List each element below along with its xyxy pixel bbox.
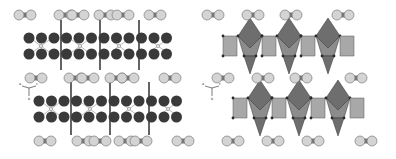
light-atom bbox=[314, 136, 324, 146]
vertex-atom bbox=[265, 117, 268, 120]
vertex-atom bbox=[261, 55, 264, 58]
octahedron-face bbox=[283, 56, 295, 74]
dark-atom bbox=[161, 33, 172, 44]
dark-atom bbox=[111, 33, 122, 44]
dark-atom bbox=[71, 112, 82, 123]
dark-atom bbox=[161, 49, 172, 60]
tile bbox=[223, 36, 237, 56]
center-atom bbox=[128, 108, 131, 111]
dark-atom bbox=[59, 112, 70, 123]
dark-atom bbox=[136, 49, 147, 60]
dark-atom bbox=[124, 33, 135, 44]
tile bbox=[262, 36, 276, 56]
dark-atom bbox=[124, 49, 135, 60]
dark-atom bbox=[146, 112, 157, 123]
vertex-atom bbox=[282, 55, 285, 58]
light-atom bbox=[144, 10, 154, 20]
center-atom bbox=[50, 108, 53, 111]
svg-text:c: c bbox=[36, 82, 38, 86]
vertex-atom bbox=[232, 97, 235, 100]
center-atom bbox=[118, 45, 121, 48]
vertex-atom bbox=[292, 117, 295, 120]
dark-atom bbox=[171, 112, 182, 123]
tile bbox=[340, 36, 354, 56]
dark-atom bbox=[46, 96, 57, 107]
dark-atom bbox=[49, 49, 60, 60]
dark-atom bbox=[34, 96, 45, 107]
svg-text:b: b bbox=[28, 97, 31, 101]
dark-atom bbox=[71, 96, 82, 107]
dark-atom bbox=[84, 96, 95, 107]
light-atom bbox=[79, 10, 89, 20]
crystal-structure-figure: acb acb bbox=[0, 0, 396, 159]
vertex-atom bbox=[310, 97, 313, 100]
polyhedral-structure: acb bbox=[198, 0, 396, 159]
tile bbox=[350, 98, 364, 118]
light-atom bbox=[171, 73, 181, 83]
dark-atom bbox=[24, 49, 35, 60]
vertex-atom bbox=[222, 55, 225, 58]
vertex-atom bbox=[237, 35, 240, 38]
light-atom bbox=[262, 136, 272, 146]
vertex-atom bbox=[315, 35, 318, 38]
ball-stick-structure: acb bbox=[0, 0, 198, 159]
light-atom bbox=[129, 73, 139, 83]
light-atom bbox=[355, 136, 365, 146]
center-atom bbox=[79, 45, 82, 48]
axis-indicator: acb bbox=[202, 82, 221, 101]
light-atom bbox=[367, 136, 377, 146]
vertex-atom bbox=[261, 35, 264, 38]
vertex-atom bbox=[255, 55, 258, 58]
dark-atom bbox=[146, 96, 157, 107]
vertex-atom bbox=[247, 97, 250, 100]
light-atom bbox=[114, 136, 124, 146]
dark-atom bbox=[61, 49, 72, 60]
vertex-atom bbox=[343, 117, 346, 120]
vertex-atom bbox=[294, 55, 297, 58]
light-atom bbox=[357, 73, 367, 83]
light-atom bbox=[130, 136, 140, 146]
dark-atom bbox=[74, 49, 85, 60]
dark-atom bbox=[96, 96, 107, 107]
light-atom bbox=[26, 10, 36, 20]
light-atom bbox=[202, 10, 212, 20]
light-atom bbox=[252, 73, 262, 83]
light-atom bbox=[94, 10, 104, 20]
dark-atom bbox=[61, 33, 72, 44]
light-atom bbox=[46, 136, 56, 146]
dark-atom bbox=[99, 49, 110, 60]
vertex-atom bbox=[232, 117, 235, 120]
light-atom bbox=[54, 10, 64, 20]
light-atom bbox=[67, 10, 77, 20]
dark-atom bbox=[46, 112, 57, 123]
light-atom bbox=[14, 10, 24, 20]
vertex-atom bbox=[325, 97, 328, 100]
dark-atom bbox=[159, 112, 170, 123]
tile bbox=[311, 98, 325, 118]
dark-atom bbox=[134, 112, 145, 123]
vertex-atom bbox=[310, 117, 313, 120]
dark-atom bbox=[86, 33, 97, 44]
light-atom bbox=[34, 136, 44, 146]
light-atom bbox=[292, 10, 302, 20]
dark-atom bbox=[111, 49, 122, 60]
light-atom bbox=[302, 73, 312, 83]
vertex-atom bbox=[300, 55, 303, 58]
light-atom bbox=[124, 10, 134, 20]
dark-atom bbox=[86, 49, 97, 60]
light-atom bbox=[280, 10, 290, 20]
light-atom bbox=[274, 136, 284, 146]
tile bbox=[301, 36, 315, 56]
dark-atom bbox=[84, 112, 95, 123]
light-atom bbox=[222, 136, 232, 146]
vertex-atom bbox=[304, 117, 307, 120]
dark-atom bbox=[109, 96, 120, 107]
dark-atom bbox=[149, 49, 160, 60]
tile bbox=[272, 98, 286, 118]
dark-atom bbox=[74, 33, 85, 44]
light-atom bbox=[184, 136, 194, 146]
svg-text:a: a bbox=[202, 82, 204, 86]
octahedron-face bbox=[293, 118, 305, 136]
vertex-atom bbox=[333, 55, 336, 58]
svg-text:c: c bbox=[219, 82, 221, 86]
